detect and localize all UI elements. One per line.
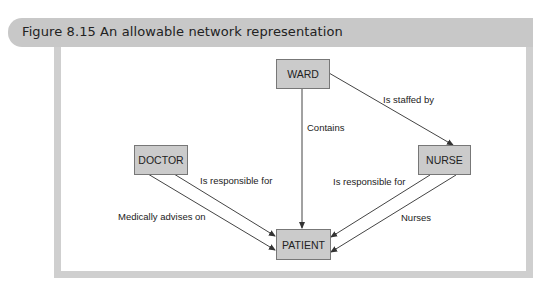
node-doctor-label: DOCTOR: [138, 154, 183, 166]
edge-label-medically-advises-on: Medically advises on: [118, 211, 206, 222]
node-ward: WARD: [276, 59, 330, 89]
node-patient: PATIENT: [276, 229, 331, 260]
edge-label-nurse-is-responsible-for: Is responsible for: [333, 176, 405, 187]
edge-label-is-staffed-by: Is staffed by: [383, 94, 434, 105]
edge-ward-staffed-by-nurse: [329, 73, 453, 145]
node-nurse: NURSE: [418, 145, 471, 175]
edge-label-doctor-is-responsible-for: Is responsible for: [200, 175, 272, 186]
edge-label-contains: Contains: [307, 122, 345, 133]
node-doctor: DOCTOR: [134, 145, 188, 175]
node-nurse-label: NURSE: [426, 154, 463, 166]
node-ward-label: WARD: [287, 68, 319, 80]
node-patient-label: PATIENT: [282, 239, 325, 251]
edge-label-nurses: Nurses: [401, 212, 431, 223]
